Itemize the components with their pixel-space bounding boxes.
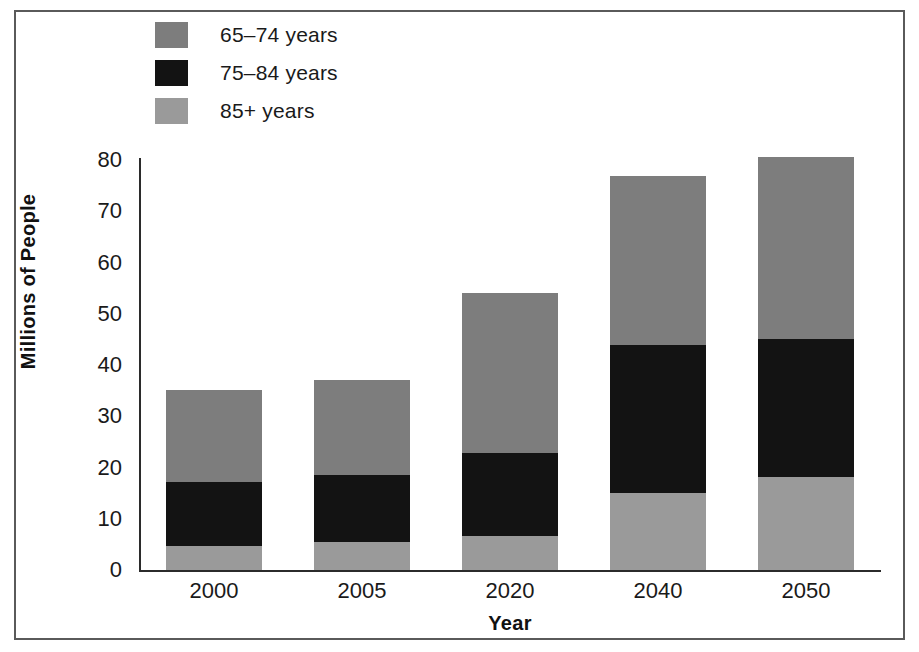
bar-segment-2005-75-84-years[interactable] [314,475,410,542]
y-tick-40: 40 [98,352,122,378]
y-tick-0: 0 [110,557,122,583]
bar-segment-2005-85+-years[interactable] [314,542,410,570]
legend-item-65-74: 65–74 years [155,16,475,54]
legend-label-75-84: 75–84 years [220,61,338,85]
x-tick-2050: 2050 [741,578,871,604]
x-tick-2020: 2020 [445,578,575,604]
bar-segment-2040-85+-years[interactable] [610,493,706,570]
legend-swatch-85-plus-icon [155,98,188,124]
legend-label-85-plus: 85+ years [220,99,315,123]
x-tick-2040: 2040 [593,578,723,604]
y-tick-30: 30 [98,403,122,429]
legend-item-75-84: 75–84 years [155,54,475,92]
chart-legend: 65–74 years 75–84 years 85+ years [155,16,475,130]
bar-segment-2000-85+-years[interactable] [166,546,262,570]
y-axis-title: Millions of People [17,162,40,402]
bar-segment-2005-65-74-years[interactable] [314,380,410,475]
figure-container: 65–74 years 75–84 years 85+ years 010203… [0,0,919,652]
bar-segment-2050-75-84-years[interactable] [758,339,854,477]
bar-segment-2020-75-84-years[interactable] [462,453,558,536]
bar-segment-2020-85+-years[interactable] [462,536,558,570]
y-tick-60: 60 [98,250,122,276]
bar-segment-2040-75-84-years[interactable] [610,345,706,493]
x-tick-2005: 2005 [297,578,427,604]
x-axis-line [139,570,881,572]
y-tick-70: 70 [98,198,122,224]
bar-segment-2040-65-74-years[interactable] [610,176,706,345]
bar-stack-2050 [758,157,854,570]
bar-stack-2000 [166,390,262,570]
legend-item-85-plus: 85+ years [155,92,475,130]
x-axis-ticks: 20002005202020402050 [140,578,880,612]
bar-stack-2020 [462,293,558,570]
legend-swatch-65-74-icon [155,22,188,48]
y-tick-10: 10 [98,506,122,532]
y-tick-50: 50 [98,301,122,327]
bar-segment-2050-85+-years[interactable] [758,477,854,570]
legend-label-65-74: 65–74 years [220,23,338,47]
y-tick-80: 80 [98,147,122,173]
bars-container [140,160,880,570]
bar-stack-2040 [610,176,706,570]
bar-segment-2000-65-74-years[interactable] [166,390,262,482]
bar-segment-2000-75-84-years[interactable] [166,482,262,546]
bar-segment-2020-65-74-years[interactable] [462,293,558,453]
x-tick-2000: 2000 [149,578,279,604]
bar-stack-2005 [314,380,410,570]
x-axis-title: Year [140,612,880,635]
y-tick-20: 20 [98,455,122,481]
bar-segment-2050-65-74-years[interactable] [758,157,854,339]
legend-swatch-75-84-icon [155,60,188,86]
